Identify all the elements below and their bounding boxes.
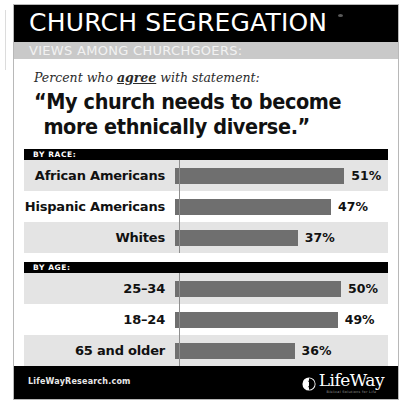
chart-bar (175, 168, 344, 184)
chart-axis-line (179, 273, 180, 366)
chart-bar-value: 37% (305, 230, 335, 245)
chart-bar (175, 343, 295, 359)
chart-bar-value: 50% (348, 281, 378, 296)
chart-row: 65 and older36% (24, 335, 388, 366)
title-band: CHURCH SEGREGATION (14, 5, 398, 42)
chart-rows: 25–3450%18–2449%65 and older36% (24, 273, 388, 366)
chart-section: BY AGE:25–3450%18–2449%65 and older36% (14, 262, 398, 366)
chart-bar-area: 47% (174, 191, 388, 222)
chart-row: Hispanic Americans47% (24, 191, 388, 222)
chart-bar-area: 37% (174, 222, 388, 253)
chart-row-label: African Americans (24, 168, 174, 183)
footer-source-url[interactable]: LifeWayResearch.com (28, 377, 131, 386)
statement-quote-line-1: “My church needs to become (34, 90, 376, 115)
lifeway-logo-tagline: Biblical Solutions for Life (319, 390, 384, 394)
chart-row: Whites37% (24, 222, 388, 253)
lifeway-logo-text: LifeWay (319, 372, 384, 389)
chart-row-label: Whites (24, 230, 174, 245)
section-band: BY AGE: (24, 262, 388, 273)
chart-row: 25–3450% (24, 273, 388, 304)
lifeway-logo: LifeWay Biblical Solutions for Life (302, 372, 384, 394)
chart-row-label: Hispanic Americans (24, 199, 174, 214)
statement-block: Percent who agree with statement: “My ch… (14, 59, 398, 140)
chart-row-label: 65 and older (24, 343, 174, 358)
chart-axis-line (179, 160, 180, 253)
chart-row-label: 18–24 (24, 312, 174, 327)
lifeway-wordmark: LifeWay Biblical Solutions for Life (319, 372, 384, 394)
chart-sections: BY RACE:African Americans51%Hispanic Ame… (14, 149, 398, 366)
chart-bar-area: 49% (174, 304, 388, 335)
footer-band: LifeWayResearch.com LifeWay Biblical Sol… (14, 366, 398, 399)
subtitle-band: VIEWS AMONG CHURCHGOERS: (14, 42, 398, 59)
chart-section: BY RACE:African Americans51%Hispanic Ame… (14, 149, 398, 253)
section-band-label: BY AGE: (33, 262, 71, 273)
chart-bar-value: 36% (302, 343, 332, 358)
statement-kicker: Percent who agree with statement: (34, 70, 398, 85)
chart-bar-value: 49% (345, 312, 375, 327)
kicker-after: with statement: (156, 70, 260, 85)
chart-bar-area: 50% (174, 273, 388, 304)
infographic-card: CHURCH SEGREGATION VIEWS AMONG CHURCHGOE… (13, 4, 399, 400)
chart-bar-area: 36% (174, 335, 388, 366)
kicker-before: Percent who (34, 70, 117, 85)
chart-bar (175, 230, 298, 246)
section-band-label: BY RACE: (33, 149, 76, 160)
page-margin (0, 0, 12, 404)
chart-bar-area: 51% (174, 160, 388, 191)
chart-bar-value: 51% (351, 168, 381, 183)
chart-row: 18–2449% (24, 304, 388, 335)
page-title: CHURCH SEGREGATION (29, 8, 327, 37)
chart-row-label: 25–34 (24, 281, 174, 296)
chart-bar (175, 312, 338, 328)
chart-bar-value: 47% (338, 199, 368, 214)
chart-bar (175, 199, 331, 215)
chart-rows: African Americans51%Hispanic Americans47… (24, 160, 388, 253)
lifeway-circle-icon (302, 377, 316, 391)
kicker-emphasis: agree (117, 70, 156, 85)
section-band: BY RACE: (24, 149, 388, 160)
page-subtitle: VIEWS AMONG CHURCHGOERS: (29, 43, 242, 58)
chart-row: African Americans51% (24, 160, 388, 191)
chart-bar (175, 281, 341, 297)
statement-quote-line-2: more ethnically diverse.” (34, 115, 376, 140)
